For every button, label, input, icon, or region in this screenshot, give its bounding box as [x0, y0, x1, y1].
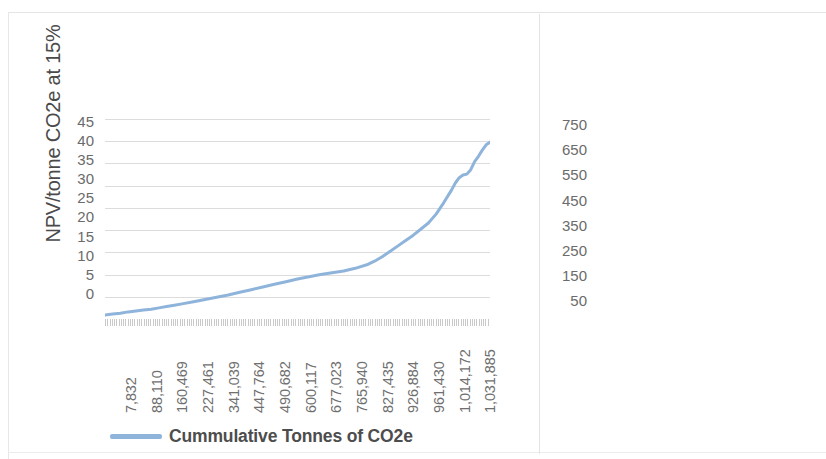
x-tick-label: 341,039 [226, 361, 242, 413]
x-tickmark [241, 319, 242, 326]
x-tickmark [343, 319, 344, 326]
x-tickmark [447, 319, 448, 326]
x-tick-label: 677,023 [328, 361, 344, 413]
x-tickmark [284, 319, 285, 326]
x-tickmark [230, 319, 231, 326]
x-tickmark [130, 319, 131, 326]
x-tickmark [128, 319, 129, 326]
x-tick-label: 490,682 [277, 361, 293, 413]
x-tickmark [166, 319, 167, 326]
x-tick-label: 88,110 [149, 370, 165, 413]
panel-divider [539, 14, 540, 454]
x-tickmark [347, 319, 348, 326]
x-tickmark [218, 319, 219, 326]
x-tick-label: 827,435 [380, 361, 396, 413]
x-tickmark [187, 319, 188, 326]
y-tick-label: 150 [545, 263, 587, 288]
page-edge-left [8, 12, 9, 459]
y-tick-label: 650 [545, 137, 587, 162]
x-tickmark [177, 319, 178, 326]
legend-label: Cummulative Tonnes of CO2e [169, 426, 413, 447]
legend-line-swatch [110, 434, 162, 439]
x-tickmark [363, 319, 364, 326]
y-tick-label: 350 [545, 213, 587, 238]
x-tickmark [418, 319, 419, 326]
x-tickmark [232, 319, 233, 326]
x-tickmark [162, 319, 163, 326]
x-tickmark [329, 319, 330, 326]
x-tickmark [144, 319, 145, 326]
x-tickmark [461, 319, 462, 326]
x-tickmark [352, 319, 353, 326]
x-tickmark [313, 319, 314, 326]
x-tickmark [200, 319, 201, 326]
x-tickmark [236, 319, 237, 326]
x-tickmark [452, 319, 453, 326]
x-tickmark [243, 319, 244, 326]
x-tickmark [112, 319, 113, 326]
y-axis-ticks-left: 454035302520151050 [56, 112, 94, 303]
x-tickmark [479, 319, 480, 326]
x-tickmark [295, 319, 296, 326]
x-tick-label: 926,884 [405, 361, 421, 413]
x-tickmark [395, 319, 396, 326]
x-tickmark [481, 319, 482, 326]
x-tickmark [485, 319, 486, 326]
x-tickmark [359, 319, 360, 326]
y-tick-label: 45 [56, 112, 94, 131]
x-tickmark [288, 319, 289, 326]
x-tickmark [406, 319, 407, 326]
x-tickmark [119, 319, 120, 326]
x-tickmark [153, 319, 154, 326]
x-tickmark [239, 319, 240, 326]
x-tickmark [123, 319, 124, 326]
x-tickmark [105, 319, 106, 326]
x-tickmark [438, 319, 439, 326]
y-tick-label: 0 [56, 284, 94, 303]
x-tickmark [159, 319, 160, 326]
y-tick-label: 40 [56, 131, 94, 150]
x-tickmark [202, 319, 203, 326]
x-tickmark [440, 319, 441, 326]
x-tickmark [207, 319, 208, 326]
x-tickmark [223, 319, 224, 326]
x-tickmark [182, 319, 183, 326]
x-tickmark [386, 319, 387, 326]
x-tickmark [472, 319, 473, 326]
y-tick-label: 450 [545, 188, 587, 213]
x-tickmark [300, 319, 301, 326]
x-tickmark [331, 319, 332, 326]
x-axis-labels-left: 7,83288,110160,469227,461341,039447,7644… [105, 329, 490, 415]
x-tick-label: 227,461 [200, 361, 216, 413]
x-tickmark [275, 319, 276, 326]
x-tickmark [191, 319, 192, 326]
x-tickmark [189, 319, 190, 326]
x-tickmark [327, 319, 328, 326]
x-tick-label: 765,940 [354, 361, 370, 413]
x-tickmark [173, 319, 174, 326]
x-tickmark [302, 319, 303, 326]
x-tickmark [356, 319, 357, 326]
x-tickmark [168, 319, 169, 326]
x-tickmark [393, 319, 394, 326]
x-tickmark [282, 319, 283, 326]
x-tickmark [377, 319, 378, 326]
x-tickmark [413, 319, 414, 326]
x-tickmark [137, 319, 138, 326]
x-tickmark [341, 319, 342, 326]
x-tickmark [307, 319, 308, 326]
x-tickmark [420, 319, 421, 326]
x-tickmark [157, 319, 158, 326]
x-tickmark [139, 319, 140, 326]
x-tick-label: 1,031,885 [482, 349, 498, 413]
x-tickmark [345, 319, 346, 326]
x-tickmark [384, 319, 385, 326]
x-tickmark [164, 319, 165, 326]
x-tickmark [375, 319, 376, 326]
chart-right: 75065055045035025015050 1,051,9151,052,1… [545, 14, 826, 454]
x-tick-label: 7,832 [123, 377, 139, 413]
y-tick-label: 10 [56, 246, 94, 265]
x-tickmark [354, 319, 355, 326]
x-tickmark [254, 319, 255, 326]
x-tickmark [205, 319, 206, 326]
